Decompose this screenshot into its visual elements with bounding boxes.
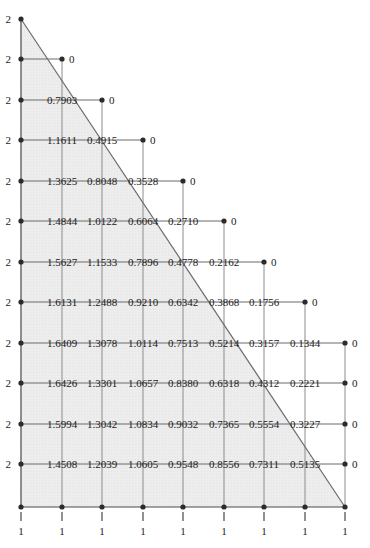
hyp-zero-row-6: 0	[266, 257, 277, 268]
value-r9-c6: 0.4312	[248, 378, 280, 389]
mesh-figure: 2 2 2 2 2 2 2 2 2 2 2 2 0 0 0 0 0 0 0 0 …	[0, 0, 370, 548]
value-r8-c2: 1.3078	[86, 338, 118, 349]
hyp-zero-row-4: 0	[185, 176, 196, 187]
hyp-zero-row-10: 0	[347, 419, 358, 430]
bottom-tick-label-4: 1	[180, 526, 186, 537]
value-r10-c2: 1.3042	[86, 419, 118, 430]
hyp-zero-row-3: 0	[145, 135, 156, 146]
value-r9-c4: 0.8380	[167, 378, 199, 389]
value-r7-c6: 0.1756	[248, 297, 280, 308]
bottom-tick-label-7: 1	[302, 526, 308, 537]
hyp-zero-row-8: 0	[347, 338, 358, 349]
value-r9-c7: 0.2221	[289, 378, 321, 389]
value-r6-c3: 0.7896	[127, 257, 159, 268]
value-r11-c1: 1.4508	[46, 459, 78, 470]
value-r8-c6: 0.3157	[248, 338, 280, 349]
value-r8-c1: 1.6409	[46, 338, 78, 349]
value-r7-c5: 0.3868	[208, 297, 240, 308]
value-r11-c5: 0.8556	[208, 459, 240, 470]
left-value-row-6: 2	[6, 257, 16, 268]
left-value-row-2: 2	[6, 95, 16, 106]
value-r3-c1: 1.1611	[46, 135, 78, 146]
value-r11-c4: 0.9548	[167, 459, 199, 470]
value-r7-c1: 1.6131	[46, 297, 78, 308]
value-r6-c4: 0.4778	[167, 257, 199, 268]
value-r7-c4: 0.6342	[167, 297, 199, 308]
value-r7-c3: 0.9210	[127, 297, 159, 308]
value-r5-c3: 0.6064	[127, 216, 159, 227]
value-r7-c2: 1.2488	[86, 297, 118, 308]
hyp-zero-row-2: 0	[104, 95, 115, 106]
value-r2-c1: 0.7903	[46, 95, 78, 106]
value-r8-c7: 0.1344	[289, 338, 321, 349]
left-value-row-11: 2	[6, 459, 16, 470]
value-r10-c3: 1.0834	[127, 419, 159, 430]
value-r6-c1: 1.5627	[46, 257, 78, 268]
value-r6-c5: 0.2162	[208, 257, 240, 268]
value-r9-c3: 1.0657	[127, 378, 159, 389]
left-value-row-1: 2	[6, 54, 16, 65]
hyp-zero-row-11: 0	[347, 459, 358, 470]
value-r8-c5: 0.5214	[208, 338, 240, 349]
bottom-tick-label-3: 1	[140, 526, 146, 537]
bottom-tick-label-5: 1	[221, 526, 227, 537]
value-r9-c5: 0.6318	[208, 378, 240, 389]
value-r10-c4: 0.9032	[167, 419, 199, 430]
value-r11-c2: 1.2039	[86, 459, 118, 470]
value-r10-c1: 1.5994	[46, 419, 78, 430]
bottom-tick-label-8: 1	[342, 526, 348, 537]
value-r9-c1: 1.6426	[46, 378, 78, 389]
value-r6-c2: 1.1533	[86, 257, 118, 268]
value-r4-c3: 0.3528	[127, 176, 159, 187]
hyp-zero-row-9: 0	[347, 378, 358, 389]
value-r8-c3: 1.0114	[127, 338, 159, 349]
left-value-row-3: 2	[6, 135, 16, 146]
value-r5-c1: 1.4844	[46, 216, 78, 227]
value-r10-c6: 0.5554	[248, 419, 280, 430]
value-r4-c2: 0.8048	[86, 176, 118, 187]
value-r5-c4: 0.2710	[167, 216, 199, 227]
left-value-row-7: 2	[6, 297, 16, 308]
hyp-zero-row-1: 0	[64, 54, 75, 65]
value-r11-c3: 1.0605	[127, 459, 159, 470]
bottom-tick-label-0: 1	[18, 526, 24, 537]
bottom-tick-marks	[21, 512, 345, 521]
value-r9-c2: 1.3301	[86, 378, 118, 389]
bottom-tick-label-1: 1	[59, 526, 65, 537]
left-value-row-8: 2	[6, 338, 16, 349]
value-r11-c7: 0.5135	[289, 459, 321, 470]
value-r5-c2: 1.0122	[86, 216, 118, 227]
hyp-zero-row-7: 0	[307, 297, 318, 308]
value-r10-c5: 0.7365	[208, 419, 240, 430]
left-value-row-5: 2	[6, 216, 16, 227]
left-value-row-4: 2	[6, 176, 16, 187]
value-r8-c4: 0.7513	[167, 338, 199, 349]
value-r3-c2: 0.4915	[86, 135, 118, 146]
bottom-tick-label-6: 1	[261, 526, 267, 537]
left-value-row-10: 2	[6, 419, 16, 430]
value-r11-c6: 0.7311	[248, 459, 280, 470]
hyp-zero-row-5: 0	[226, 216, 237, 227]
value-r10-c7: 0.3227	[289, 419, 321, 430]
left-value-row-0: 2	[6, 14, 16, 25]
value-r4-c1: 1.3625	[46, 176, 78, 187]
bottom-tick-label-2: 1	[99, 526, 105, 537]
left-value-row-9: 2	[6, 378, 16, 389]
